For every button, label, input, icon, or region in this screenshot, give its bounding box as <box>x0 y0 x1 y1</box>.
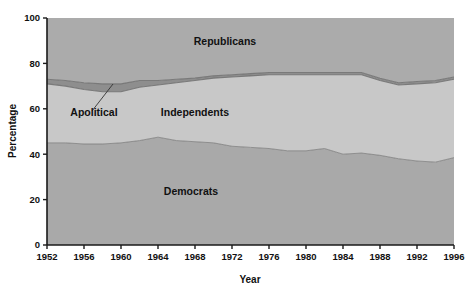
x-tick-label-1968: 1968 <box>184 251 205 262</box>
party-identification-area-chart: 020406080100 195219561960196419681972197… <box>0 0 472 297</box>
stacked-area-series-group <box>47 18 454 245</box>
y-tick-label-40: 40 <box>29 149 40 160</box>
y-tick-label-0: 0 <box>35 239 40 250</box>
series-label-independents: Independents <box>161 106 229 118</box>
x-axis-title: Year <box>239 274 260 285</box>
y-tick-label-100: 100 <box>24 12 40 23</box>
y-axis-title: Percentage <box>7 104 18 158</box>
x-tick-label-1976: 1976 <box>258 251 279 262</box>
x-tick-label-1996: 1996 <box>443 251 464 262</box>
y-tick-label-60: 60 <box>29 103 40 114</box>
x-tick-label-1984: 1984 <box>332 251 354 262</box>
x-tick-label-1952: 1952 <box>36 251 57 262</box>
y-tick-label-20: 20 <box>29 194 40 205</box>
x-tick-label-1960: 1960 <box>110 251 131 262</box>
x-tick-label-1980: 1980 <box>295 251 316 262</box>
x-tick-label-1972: 1972 <box>221 251 242 262</box>
series-label-democrats: Democrats <box>164 185 218 197</box>
series-label-republicans: Republicans <box>194 35 257 47</box>
y-tick-label-80: 80 <box>29 58 40 69</box>
annotation-label-apolitical: Apolitical <box>70 106 117 118</box>
chart-canvas: 020406080100 195219561960196419681972197… <box>0 0 472 297</box>
x-tick-label-1964: 1964 <box>147 251 169 262</box>
x-tick-label-1956: 1956 <box>73 251 94 262</box>
x-tick-label-1992: 1992 <box>406 251 427 262</box>
x-tick-label-1988: 1988 <box>369 251 390 262</box>
